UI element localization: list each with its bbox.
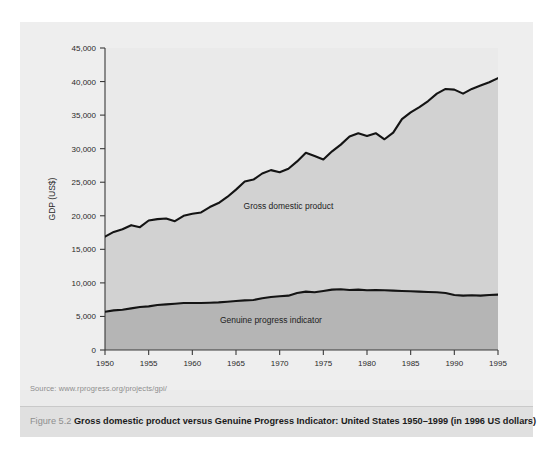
y-tick-label: 35,000 <box>72 111 97 120</box>
y-tick-label: 10,000 <box>72 279 97 288</box>
y-tick-label: 40,000 <box>72 78 97 87</box>
source-note: Source: www.rprogress.org/projects/gpi/ <box>30 384 167 393</box>
x-tick-label: 1980 <box>358 359 376 368</box>
x-tick-label: 1990 <box>445 359 463 368</box>
figure-number: Figure 5.2 <box>30 416 71 426</box>
figure-title: Gross domestic product versus Genuine Pr… <box>74 416 536 426</box>
x-tick-label: 1985 <box>402 359 420 368</box>
y-axis-title: GDP (US$) <box>47 177 57 220</box>
x-tick-label: 1955 <box>140 359 158 368</box>
figure-container: 05,00010,00015,00020,00025,00030,00035,0… <box>20 22 533 436</box>
y-tick-label: 45,000 <box>72 44 97 53</box>
x-tick-label: 1960 <box>183 359 201 368</box>
caption-text: Figure 5.2 Gross domestic product versus… <box>20 417 536 426</box>
y-tick-label: 0 <box>92 346 97 355</box>
x-tick-label: 1970 <box>271 359 289 368</box>
y-tick-label: 15,000 <box>72 245 97 254</box>
x-tick-label: 1965 <box>227 359 245 368</box>
y-tick-label: 20,000 <box>72 212 97 221</box>
y-tick-label: 30,000 <box>72 145 97 154</box>
x-tick-label: 1975 <box>314 359 332 368</box>
x-tick-label: 1995 <box>489 359 507 368</box>
chart-panel: 05,00010,00015,00020,00025,00030,00035,0… <box>20 22 533 390</box>
caption-bar: Figure 5.2 Gross domestic product versus… <box>20 406 533 437</box>
gdp-gpi-area-chart: 05,00010,00015,00020,00025,00030,00035,0… <box>20 22 533 390</box>
gdp-series-label: Gross domestic product <box>244 201 334 211</box>
y-tick-label: 5,000 <box>76 312 97 321</box>
y-tick-label: 25,000 <box>72 178 97 187</box>
x-tick-label: 1950 <box>96 359 114 368</box>
gpi-series-label: Genuine progress indicator <box>220 315 322 325</box>
